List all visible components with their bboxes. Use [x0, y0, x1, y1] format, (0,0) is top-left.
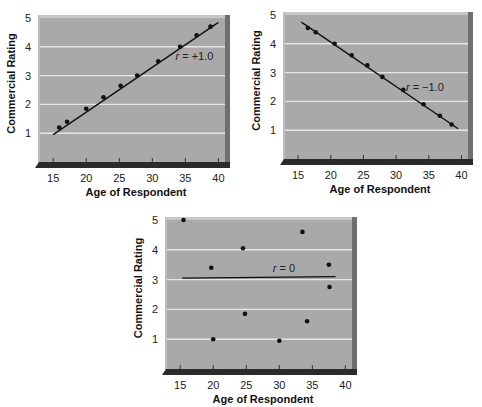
data-point [209, 265, 214, 270]
plot-area [162, 217, 357, 375]
y-axis-title: Commercial Rating [132, 238, 144, 338]
svg-text:3: 3 [152, 274, 158, 286]
svg-text:5: 5 [152, 214, 158, 226]
correlation-label: r = 0 [273, 262, 295, 274]
data-point [241, 246, 246, 251]
x-axis-tick-labels: 152025303540 [174, 379, 351, 391]
svg-text:20: 20 [207, 379, 219, 391]
x-axis-title: Age of Respondent [213, 393, 314, 405]
data-point [277, 338, 282, 343]
svg-text:35: 35 [306, 379, 318, 391]
svg-text:25: 25 [240, 379, 252, 391]
svg-text:30: 30 [273, 379, 285, 391]
data-point [327, 285, 332, 290]
svg-text:1: 1 [152, 333, 158, 345]
data-point [181, 218, 186, 223]
chart-svg: r = 012345152025303540Age of RespondentC… [0, 0, 482, 407]
svg-text:15: 15 [174, 379, 186, 391]
svg-text:4: 4 [152, 244, 158, 256]
svg-text:40: 40 [339, 379, 351, 391]
data-point [300, 230, 305, 235]
data-point [305, 319, 310, 324]
y-axis-tick-labels: 12345 [152, 214, 158, 345]
svg-text:2: 2 [152, 303, 158, 315]
data-point [327, 262, 332, 267]
data-point [243, 312, 248, 317]
data-point [211, 337, 216, 342]
scatter-chart-zero-correlation: r = 012345152025303540Age of RespondentC… [0, 0, 482, 407]
